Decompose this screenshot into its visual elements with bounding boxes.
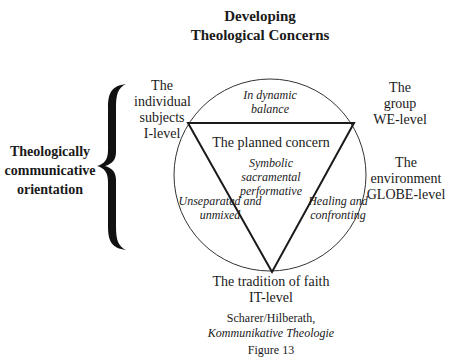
i-level-line-4: I-level	[134, 126, 190, 142]
label-dynamic-balance: In dynamic balance	[230, 88, 310, 116]
source-citation: Scharer/Hilberath, Kommunikative Theolog…	[190, 311, 352, 341]
globe-level-line-2: environment	[364, 171, 448, 187]
i-level-line-1: The	[134, 78, 190, 94]
we-level-line-3: WE-level	[370, 112, 430, 128]
label-planned-concern: The planned concern	[210, 135, 332, 151]
label-we-level: The group WE-level	[370, 80, 430, 128]
side-label-line-3: orientation	[4, 180, 96, 199]
figure-caption: Figure 13	[230, 343, 312, 358]
label-symbolic: Symbolic sacramental performative	[230, 156, 312, 198]
dynamic-balance-line-1: In dynamic	[230, 88, 310, 102]
we-level-line-1: The	[370, 80, 430, 96]
it-level-line-1: The tradition of faith	[200, 274, 342, 290]
unseparated-line-2: unmixed	[178, 208, 262, 222]
diagram-title: Developing Theological Concerns	[170, 7, 350, 45]
globe-level-line-1: The	[364, 155, 448, 171]
label-it-level: The tradition of faith IT-level	[200, 274, 342, 306]
symbolic-line-2: sacramental	[230, 170, 312, 184]
label-healing: Healing and confronting	[306, 194, 370, 222]
curly-brace-icon	[97, 84, 126, 250]
source-authors: Scharer/Hilberath,	[190, 311, 352, 326]
healing-line-1: Healing and	[306, 194, 370, 208]
we-level-line-2: group	[370, 96, 430, 112]
i-level-line-2: individual	[134, 94, 190, 110]
label-i-level: The individual subjects I-level	[134, 78, 190, 142]
side-label: Theologically communicative orientation	[4, 142, 96, 199]
title-line-1: Developing	[170, 7, 350, 26]
healing-line-2: confronting	[306, 208, 370, 222]
unseparated-line-1: Unseparated and	[178, 194, 262, 208]
globe-level-line-3: GLOBE-level	[364, 187, 448, 203]
title-line-2: Theological Concerns	[170, 26, 350, 45]
side-label-line-1: Theologically	[4, 142, 96, 161]
side-label-line-2: communicative	[4, 161, 96, 180]
label-globe-level: The environment GLOBE-level	[364, 155, 448, 203]
dynamic-balance-line-2: balance	[230, 102, 310, 116]
source-work: Kommunikative Theologie	[190, 326, 352, 341]
label-unseparated: Unseparated and unmixed	[178, 194, 262, 222]
it-level-line-2: IT-level	[200, 290, 342, 306]
symbolic-line-1: Symbolic	[230, 156, 312, 170]
i-level-line-3: subjects	[134, 110, 190, 126]
